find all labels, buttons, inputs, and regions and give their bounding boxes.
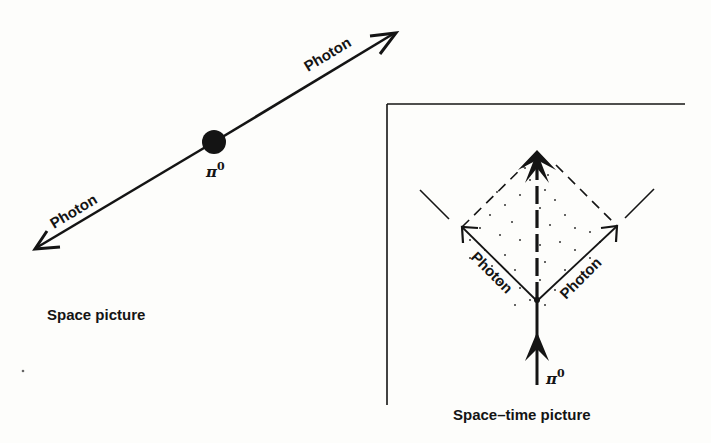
speck	[22, 370, 25, 373]
future-cone-left	[462, 160, 530, 227]
spacetime-picture-caption: Space–time picture	[453, 406, 591, 423]
cone-extension-left	[420, 190, 449, 219]
pion-decay-figure: π0 Photon Photon Space picture	[0, 0, 711, 443]
future-cone-right	[556, 165, 617, 226]
space-picture-caption: Space picture	[47, 306, 145, 323]
photon-track-left	[36, 142, 214, 248]
decay-vertex	[534, 297, 540, 303]
pion-label-spacetime: π0	[545, 367, 565, 388]
space-picture: π0 Photon Photon Space picture	[22, 33, 396, 372]
photon-track-right	[214, 34, 393, 142]
arrowhead-right-icon	[370, 33, 396, 54]
pion-label: π0	[205, 160, 225, 181]
pion-particle-icon	[202, 130, 226, 154]
cone-extension-right	[625, 189, 654, 218]
spacetime-picture: π0 Photon Photon Space–time picture	[387, 104, 685, 423]
photon-label-right: Photon	[301, 33, 354, 74]
